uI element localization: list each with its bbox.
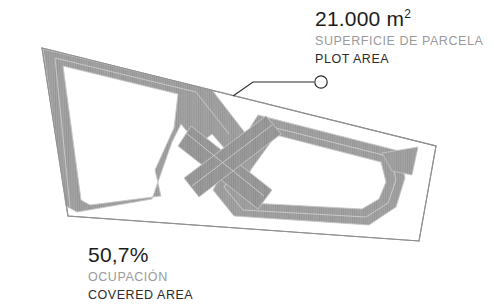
leader-circle-marker xyxy=(315,76,327,88)
plot-area-unit-exponent: 2 xyxy=(404,7,411,21)
diagram-stage: 21.000 m2 SUPERFICIE DE PARCELA PLOT ARE… xyxy=(0,0,494,307)
plot-area-leader xyxy=(233,76,327,96)
plot-area-number: 21.000 m xyxy=(315,7,404,30)
callout-covered-area: 50,7% OCUPACIÓN COVERED AREA xyxy=(88,244,193,304)
callout-plot-area: 21.000 m2 SUPERFICIE DE PARCELA PLOT ARE… xyxy=(315,8,483,68)
covered-area-label-es: OCUPACIÓN xyxy=(88,269,193,286)
plot-area-value: 21.000 m2 xyxy=(315,8,483,30)
covered-area-value: 50,7% xyxy=(88,244,193,266)
plot-area-label-es: SUPERFICIE DE PARCELA xyxy=(315,33,483,50)
covered-area-label-en: COVERED AREA xyxy=(88,287,193,304)
plot-area-label-en: PLOT AREA xyxy=(315,51,483,68)
